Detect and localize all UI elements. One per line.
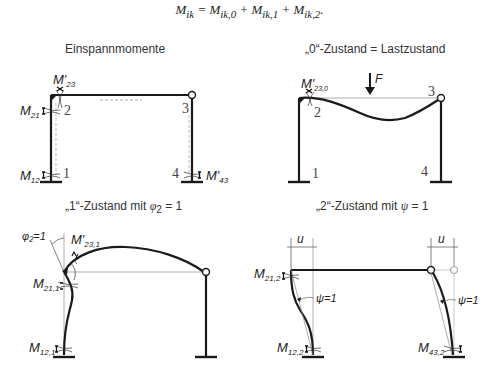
node-2: 2 <box>314 105 321 120</box>
moment-label-m231: M'23,1 <box>71 232 100 249</box>
deflected-column-right <box>433 273 453 355</box>
node-1: 1 <box>312 166 319 181</box>
moment-label-m43: M'43 <box>206 168 229 185</box>
moment-label-m230: M'23,0 <box>301 76 328 92</box>
node-1: 1 <box>63 166 70 181</box>
moment-label-m12: M12 <box>20 168 40 185</box>
hinge-icon <box>189 92 196 99</box>
panel-einspannmomente: 2 3 1 4 M'23 M21 M12 M'43 <box>20 72 229 185</box>
hinge-icon <box>203 269 210 276</box>
panel-zustand-0: F M'23,0 2 3 1 4 <box>288 72 452 182</box>
moment-label-m23: M'23 <box>53 72 76 89</box>
moment-label-m21: M21 <box>20 103 40 120</box>
moment-label-m122: M12,2 <box>277 340 304 357</box>
hinge-original-icon <box>451 267 458 274</box>
frame-diagrams: 2 3 1 4 M'23 M21 M12 M'43 F <box>0 0 499 377</box>
displacement-label-u-right: u <box>438 232 445 246</box>
moment-symbol-icon <box>42 87 201 178</box>
node-4: 4 <box>421 164 428 179</box>
displacement-label-u-left: u <box>297 232 304 246</box>
node-3: 3 <box>428 84 435 99</box>
chord-rotation-label-left: ψ=1 <box>316 292 337 304</box>
moment-label-m212: M21,2 <box>254 266 281 283</box>
chord-rotation-label-right: ψ=1 <box>458 294 479 306</box>
load-label-f: F <box>375 72 383 86</box>
node-4: 4 <box>172 166 179 181</box>
panel-zustand-2: u u ψ=1 ψ=1 M21,2 M1 <box>254 232 479 357</box>
moment-label-m121: M12,1 <box>29 340 55 357</box>
panel-zustand-1: φ₂=1 M'23,1 M21,1 M12,1 <box>22 230 217 357</box>
rotation-label-phi2: φ₂=1 <box>22 230 46 242</box>
moment-label-m432: M43,2 <box>418 340 445 357</box>
load-arrow-icon <box>365 87 375 95</box>
hinge-icon <box>428 267 435 274</box>
deflected-beam <box>64 247 204 272</box>
node-3: 3 <box>182 101 189 116</box>
node-2: 2 <box>64 103 71 118</box>
moment-label-m211: M21,1 <box>33 276 59 293</box>
hinge-icon <box>438 95 445 102</box>
